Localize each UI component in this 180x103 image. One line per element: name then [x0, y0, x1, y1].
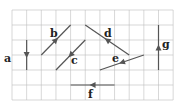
arrowhead-icon [119, 59, 126, 65]
vector-label: b [50, 27, 58, 40]
vector-label: g [162, 38, 170, 51]
vector-f: f [71, 82, 115, 101]
arrowhead-icon [156, 45, 162, 51]
vector-grid-diagram: abcdefg [0, 0, 180, 103]
vector-label: c [71, 54, 78, 67]
vector-label: e [112, 52, 119, 65]
vector-g: g [156, 25, 171, 70]
vector-label: a [4, 52, 11, 65]
vector-label: f [88, 88, 94, 101]
vectors: abcdefg [4, 25, 170, 101]
vector-label: d [104, 27, 112, 40]
